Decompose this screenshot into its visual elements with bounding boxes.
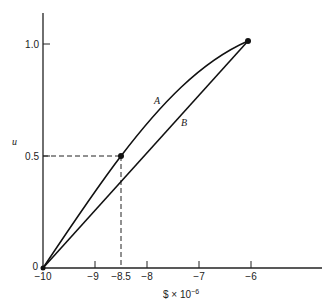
- point-end: [245, 38, 251, 44]
- y-tick-label-0.5: 0.5: [25, 151, 39, 162]
- x-axis-title-main: $ × 10: [163, 289, 192, 300]
- y-tick-label-1.0: 1.0: [25, 39, 39, 50]
- point-mid: [118, 153, 124, 159]
- x-tick-label--6: −6: [245, 271, 257, 282]
- x-tick-label--7: −7: [193, 271, 205, 282]
- utility-chart: A B u 1.0 0.5 0 −10 −9 −8.5 −8 −7 −6 $ ×…: [0, 0, 332, 306]
- x-tick-label--10: −10: [35, 271, 52, 282]
- point-origin: [41, 266, 46, 271]
- x-axis-title: $ × 10−6: [163, 288, 199, 300]
- x-tick-label--8.5: −8.5: [111, 271, 131, 282]
- y-axis-title: u: [12, 136, 17, 147]
- x-tick-label--8: −8: [141, 271, 153, 282]
- curve-b-label: B: [181, 117, 187, 128]
- curve-a-label: A: [153, 95, 161, 106]
- x-tick-label--9: −9: [87, 271, 99, 282]
- line-b: [43, 41, 248, 268]
- x-axis-title-exponent: −6: [191, 288, 199, 295]
